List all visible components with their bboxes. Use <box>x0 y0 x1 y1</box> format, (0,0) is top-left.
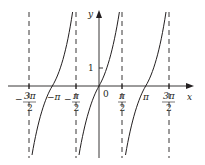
origin-label: 0 <box>103 89 109 99</box>
y-tick-label-1: 1 <box>88 63 94 73</box>
svg-text:−: − <box>15 94 23 104</box>
tick-label-pi: π <box>142 92 150 102</box>
svg-text:3π: 3π <box>24 91 37 101</box>
tick-label-3pi-2: 3π 2 <box>162 91 176 113</box>
tick-label-neg-3pi-2: − 3π 2 <box>15 91 37 113</box>
svg-text:π: π <box>118 91 126 101</box>
x-axis <box>8 83 194 89</box>
tangent-graph: y x 0 1 − 3π 2 −π − π 2 π 2 π 3π <box>0 0 205 165</box>
x-axis-arrow-icon <box>186 83 194 89</box>
svg-text:3π: 3π <box>163 91 176 101</box>
tick-label-neg-pi: −π <box>47 92 62 102</box>
svg-text:π: π <box>72 91 80 101</box>
tick-label-pi-2: π 2 <box>118 91 126 113</box>
svg-text:2: 2 <box>166 103 172 113</box>
svg-text:2: 2 <box>27 103 33 113</box>
svg-text:−: − <box>64 94 72 104</box>
svg-text:2: 2 <box>120 103 126 113</box>
y-axis-arrow-icon <box>96 10 102 18</box>
tick-label-neg-pi-2: − π 2 <box>64 91 80 113</box>
y-axis <box>96 10 102 158</box>
y-axis-label: y <box>87 9 94 19</box>
tan-branch-left <box>32 12 73 155</box>
tan-branch-right <box>126 12 167 155</box>
axis-labels: y x 0 1 − 3π 2 −π − π 2 π 2 π 3π <box>15 9 192 113</box>
x-axis-label: x <box>187 92 192 102</box>
svg-text:2: 2 <box>74 103 80 113</box>
